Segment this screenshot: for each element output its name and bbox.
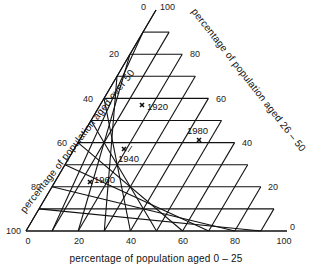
- left-tick-40: 40: [83, 94, 93, 104]
- right-tick-60: 60: [216, 94, 226, 104]
- bottom-tick-60: 60: [178, 236, 188, 246]
- point-label: 1940: [118, 153, 139, 164]
- right-tick-40: 40: [242, 138, 252, 148]
- data-point-1920: 1920: [140, 101, 168, 112]
- bottom-tick-100: 100: [276, 236, 291, 246]
- x-marker-icon: [88, 180, 92, 184]
- x-marker-icon: [197, 138, 201, 142]
- data-point-1940: 1940: [118, 146, 139, 164]
- bottom-axis-ticks: 0 20 40 60 80 100: [25, 236, 291, 246]
- x-marker-icon: [140, 103, 144, 107]
- bottom-tick-20: 20: [74, 236, 84, 246]
- bottom-tick-40: 40: [126, 236, 136, 246]
- data-point-1980: 1980: [187, 125, 208, 142]
- right-tick-20: 20: [268, 182, 278, 192]
- right-tick-100: 100: [160, 2, 175, 12]
- right-tick-0: 0: [290, 222, 295, 232]
- data-point-1960: 1960: [88, 174, 115, 185]
- triangle-grid: [26, 10, 287, 231]
- point-label: 1920: [147, 101, 168, 112]
- left-tick-20: 20: [109, 49, 119, 59]
- left-tick-0: 0: [141, 2, 146, 12]
- point-label: 1960: [94, 174, 115, 185]
- ternary-diagram: 0 20 40 60 80 100 100 80 60 40 20 0 0 20…: [0, 0, 312, 264]
- right-tick-80: 80: [190, 49, 200, 59]
- x-marker-icon: [122, 147, 126, 151]
- point-label: 1980: [187, 125, 208, 136]
- left-tick-100: 100: [6, 226, 21, 236]
- bottom-tick-80: 80: [230, 236, 240, 246]
- bottom-tick-0: 0: [25, 236, 30, 246]
- bottom-axis-title: percentage of population aged 0 – 25: [70, 253, 243, 264]
